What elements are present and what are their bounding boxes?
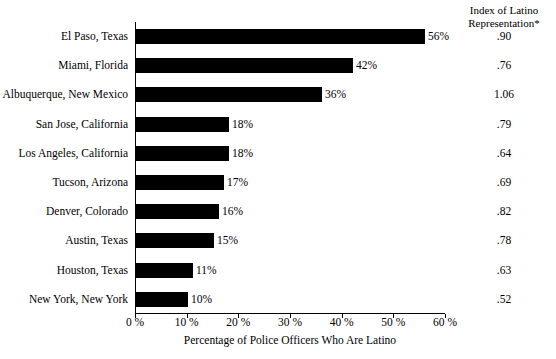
category-label: Los Angeles, California [0,139,128,168]
x-tick-label: 60 % [425,316,465,328]
table-row: Denver, Colorado 16% .82 [0,197,556,226]
bar-value-label: 18% [232,117,253,132]
index-value: .78 [456,226,552,255]
bar [136,58,353,73]
index-value: .82 [456,197,552,226]
table-row: New York, New York 10% .52 [0,285,556,314]
x-tick-label: 20 % [218,316,258,328]
index-value: .69 [456,168,552,197]
bar-value-label: 15% [217,233,238,248]
category-label: Tucson, Arizona [0,168,128,197]
category-label: San Jose, California [0,110,128,139]
table-row: Miami, Florida 42% .76 [0,51,556,80]
index-value: .90 [456,22,552,51]
bar [136,204,219,219]
x-tick-label: 0 % [115,316,155,328]
index-value: 1.06 [456,80,552,109]
table-row: Albuquerque, New Mexico 36% 1.06 [0,80,556,109]
bar-value-label: 16% [222,204,243,219]
bar-value-label: 10% [191,292,212,307]
index-value: .76 [456,51,552,80]
table-row: Houston, Texas 11% .63 [0,256,556,285]
x-axis-label: Percentage of Police Officers Who Are La… [135,334,445,346]
category-label: Austin, Texas [0,226,128,255]
table-row: Austin, Texas 15% .78 [0,226,556,255]
bar [136,292,188,307]
category-label: New York, New York [0,285,128,314]
bar [136,146,229,161]
x-tick-label: 40 % [322,316,362,328]
x-tick-label: 50 % [373,316,413,328]
bar [136,175,224,190]
table-row: San Jose, California 18% .79 [0,110,556,139]
category-label: El Paso, Texas [0,22,128,51]
bar [136,117,229,132]
index-value: .52 [456,285,552,314]
category-label: Albuquerque, New Mexico [0,80,128,109]
index-value: .79 [456,110,552,139]
bar [136,29,425,44]
x-tick-label: 10 % [167,316,207,328]
category-label: Houston, Texas [0,256,128,285]
category-label: Denver, Colorado [0,197,128,226]
table-row: El Paso, Texas 56% .90 [0,22,556,51]
bar-value-label: 56% [428,29,449,44]
category-label: Miami, Florida [0,51,128,80]
bar-value-label: 36% [325,87,346,102]
bar-value-label: 18% [232,146,253,161]
index-value: .63 [456,256,552,285]
bar [136,233,214,248]
index-value: .64 [456,139,552,168]
bar-value-label: 11% [196,263,217,278]
table-row: Tucson, Arizona 17% .69 [0,168,556,197]
bar-chart: Index of Latino Representation* El Paso,… [0,0,556,359]
bar [136,263,193,278]
index-column-header-line1: Index of Latino [456,4,552,17]
bar-rows: El Paso, Texas 56% .90 Miami, Florida 42… [0,22,556,314]
bar-value-label: 42% [356,58,377,73]
table-row: Los Angeles, California 18% .64 [0,139,556,168]
bar-value-label: 17% [227,175,248,190]
x-tick-label: 30 % [270,316,310,328]
bar [136,87,322,102]
